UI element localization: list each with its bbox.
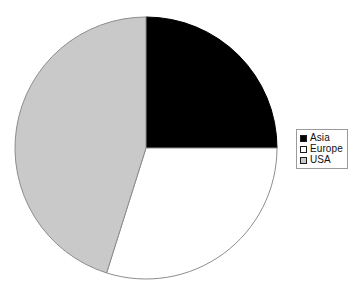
legend-label-asia: Asia [310,133,330,143]
chart-legend: Asia Europe USA [296,129,348,169]
pie-slice-asia[interactable] [146,17,277,148]
legend-item-asia[interactable]: Asia [300,133,343,143]
legend-label-usa: USA [310,155,331,165]
legend-swatch-asia [300,135,307,142]
legend-item-europe[interactable]: Europe [300,144,343,154]
legend-swatch-europe [300,146,307,153]
legend-item-usa[interactable]: USA [300,155,343,165]
legend-swatch-usa [300,157,307,164]
pie-slice-group [15,17,277,279]
pie-chart-figure: Asia Europe USA [0,0,359,298]
legend-label-europe: Europe [310,144,343,154]
